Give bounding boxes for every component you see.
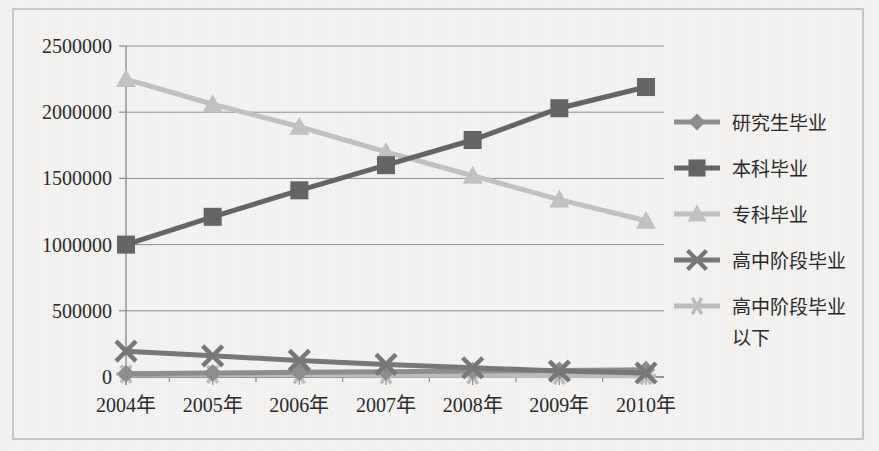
y-axis-tick-label: 1500000 [42, 167, 112, 189]
square-marker [550, 99, 568, 117]
x-axis-tick-label: 2007年 [356, 394, 416, 416]
square-marker [464, 131, 482, 149]
x-axis-tick-label: 2005年 [183, 394, 243, 416]
y-axis-tick-label: 500000 [52, 300, 112, 322]
x-axis-tick-label: 2006年 [269, 394, 329, 416]
chart-legend: 研究生毕业本科毕业专科毕业高中阶段毕业以下高中阶段毕业 [674, 113, 846, 349]
star-marker [688, 298, 707, 314]
legend-label[interactable]: 高中阶段毕业 [732, 297, 846, 318]
legend-label-continuation[interactable]: 以下 [732, 328, 770, 349]
y-axis-tick-label: 0 [102, 366, 112, 388]
square-marker [637, 78, 655, 96]
series-square [117, 78, 655, 254]
y-axis-tick-label: 1000000 [42, 234, 112, 256]
x-axis-tick-labels: 2004年2005年2006年2007年2008年2009年2010年 [96, 377, 676, 416]
diamond-marker [688, 113, 705, 130]
chart-page: 05000001000000150000020000002500000 2004… [0, 0, 879, 451]
square-marker [688, 159, 705, 176]
legend-label[interactable]: 研究生毕业 [732, 113, 827, 134]
square-marker [204, 208, 222, 226]
x-axis-tick-label: 2009年 [529, 394, 589, 416]
square-marker [290, 181, 308, 199]
line-chart: 05000001000000150000020000002500000 2004… [14, 10, 866, 442]
y-axis-tick-label: 2000000 [42, 101, 112, 123]
triangle-marker [116, 69, 136, 87]
legend-label[interactable]: 本科毕业 [732, 159, 808, 180]
legend-label[interactable]: 高中阶段毕业 [732, 251, 846, 272]
square-marker [377, 156, 395, 174]
square-marker [117, 236, 135, 254]
x-axis-tick-label: 2008年 [443, 394, 503, 416]
chart-frame: 05000001000000150000020000002500000 2004… [12, 8, 864, 440]
x-axis-tick-label: 2010年 [616, 394, 676, 416]
legend-label[interactable]: 专科毕业 [732, 205, 808, 226]
data-series-group [116, 69, 656, 384]
chart-plot-container: 05000001000000150000020000002500000 2004… [14, 10, 862, 438]
diamond-marker [117, 365, 135, 383]
series-triangle [116, 69, 656, 229]
y-axis-tick-labels: 05000001000000150000020000002500000 [42, 35, 126, 388]
y-axis-tick-label: 2500000 [42, 35, 112, 57]
x-axis-tick-label: 2004年 [96, 394, 156, 416]
axes-group [120, 46, 664, 385]
